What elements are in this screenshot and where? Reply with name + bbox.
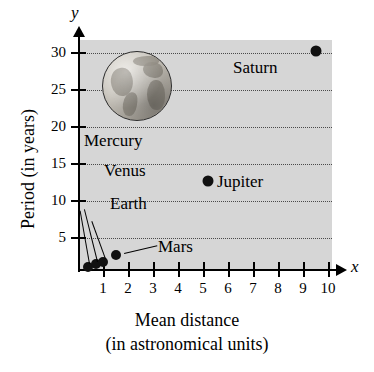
annotation-mercury: Mercury	[84, 132, 143, 149]
annotation-earth: Earth	[110, 195, 147, 212]
y-tick-30	[71, 52, 86, 54]
annotation-venus: Venus	[104, 162, 146, 179]
y-tick-10	[71, 200, 86, 202]
y-tick-label-20: 20	[38, 119, 66, 134]
data-point-jupiter[interactable]	[202, 175, 213, 186]
x-tick-4	[178, 262, 180, 277]
globe-shading	[103, 52, 171, 120]
x-tick-2	[128, 262, 130, 277]
y-tick-25	[71, 89, 86, 91]
gridline-30	[80, 53, 332, 54]
y-tick-label-30: 30	[38, 45, 66, 60]
x-axis-line	[78, 269, 340, 271]
x-tick-5	[203, 262, 205, 277]
annotation-saturn: Saturn	[233, 59, 277, 76]
y-axis-letter: y	[71, 4, 79, 21]
x-tick-7	[253, 262, 255, 277]
x-axis-title-line1: Mean distance	[0, 308, 374, 332]
gridline-5	[80, 238, 332, 239]
plot-area	[80, 40, 332, 270]
y-axis-arrow-icon	[73, 26, 85, 37]
y-tick-20	[71, 126, 86, 128]
x-tick-3	[153, 262, 155, 277]
x-tick-6	[228, 262, 230, 277]
data-point-saturn[interactable]	[310, 45, 321, 56]
y-tick-label-5: 5	[38, 230, 66, 245]
y-tick-label-10: 10	[38, 193, 66, 208]
x-tick-8	[278, 262, 280, 277]
x-axis-arrow-icon	[336, 264, 347, 276]
scatter-plot-figure: y x 30 25 20 15 10 5 1 2 3 4 5 6 7 8 9 1…	[0, 0, 374, 372]
x-axis-title: Mean distance (in astronomical units)	[0, 308, 374, 357]
y-tick-label-15: 15	[38, 156, 66, 171]
y-axis-title: Period (in years)	[19, 69, 37, 269]
earth-globe-icon	[102, 51, 172, 121]
annotation-mars: Mars	[158, 238, 193, 255]
x-tick-9	[303, 262, 305, 277]
x-axis-letter: x	[351, 258, 359, 275]
y-tick-15	[71, 163, 86, 165]
x-tick-10	[328, 262, 330, 277]
data-point-mars[interactable]	[111, 250, 121, 260]
x-axis-title-line2: (in astronomical units)	[0, 332, 374, 356]
annotation-jupiter: Jupiter	[217, 173, 263, 190]
x-tick-label-10: 10	[313, 281, 343, 296]
gridline-20	[80, 127, 332, 128]
data-point-earth[interactable]	[98, 257, 108, 267]
y-tick-label-25: 25	[38, 82, 66, 97]
